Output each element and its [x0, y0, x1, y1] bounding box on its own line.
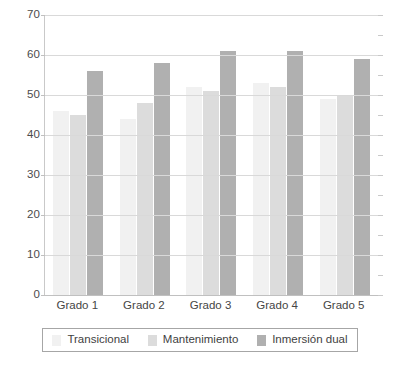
- legend-swatch-icon: [257, 335, 266, 346]
- y-minor-tick-right: [378, 155, 383, 156]
- legend-item[interactable]: Transicional: [52, 334, 129, 346]
- bar: [203, 91, 219, 295]
- y-minor-tick-right: [378, 195, 383, 196]
- bar: [154, 63, 170, 295]
- y-tick-label: 30: [6, 169, 40, 181]
- y-tick-mark: [41, 215, 45, 216]
- y-tick-label: 50: [6, 89, 40, 101]
- bar: [320, 99, 336, 295]
- bar-chart: 010203040506070 Grado 1Grado 2Grado 3Gra…: [0, 0, 402, 366]
- y-tick-mark-right: [378, 175, 383, 176]
- y-tick-mark: [41, 295, 45, 296]
- x-tick-label: Grado 2: [123, 299, 165, 313]
- bar-group: [112, 15, 179, 295]
- y-tick-mark-right: [378, 55, 383, 56]
- bar: [70, 115, 86, 295]
- bar-group: [311, 15, 378, 295]
- gridline: [45, 15, 378, 16]
- legend-label: Inmersión dual: [272, 334, 347, 346]
- y-tick-mark: [41, 55, 45, 56]
- y-axis: 010203040506070: [0, 0, 40, 310]
- bar: [120, 119, 136, 295]
- gridline: [45, 135, 378, 136]
- x-tick-label: Grado 3: [190, 299, 232, 313]
- y-minor-tick-right: [378, 75, 383, 76]
- y-tick-label: 70: [6, 9, 40, 21]
- y-tick-mark-right: [378, 135, 383, 136]
- x-tick-label: Grado 1: [57, 299, 99, 313]
- y-tick-mark-right: [378, 15, 383, 16]
- chart-legend: TransicionalMantenimientoInmersión dual: [42, 328, 358, 352]
- y-tick-label: 10: [6, 249, 40, 261]
- y-tick-mark: [41, 175, 45, 176]
- legend-swatch-icon: [148, 335, 157, 346]
- y-tick-mark: [41, 15, 45, 16]
- y-tick-mark-right: [378, 255, 383, 256]
- gridline: [45, 295, 378, 296]
- legend-label: Mantenimiento: [163, 334, 238, 346]
- bar: [186, 87, 202, 295]
- gridline: [45, 95, 378, 96]
- x-tick-label: Grado 5: [323, 299, 365, 313]
- legend-label: Transicional: [67, 334, 129, 346]
- x-axis: Grado 1Grado 2Grado 3Grado 4Grado 5: [44, 299, 377, 319]
- bars-layer: [45, 15, 378, 295]
- y-minor-tick-right: [378, 115, 383, 116]
- gridline: [45, 255, 378, 256]
- bar: [53, 111, 69, 295]
- bar: [253, 83, 269, 295]
- y-minor-tick-right: [378, 275, 383, 276]
- bar: [220, 51, 236, 295]
- x-tick-label: Grado 4: [256, 299, 298, 313]
- bar: [270, 87, 286, 295]
- y-tick-mark-right: [378, 295, 383, 296]
- bar: [287, 51, 303, 295]
- gridline: [45, 55, 378, 56]
- y-minor-tick-right: [378, 35, 383, 36]
- bar: [87, 71, 103, 295]
- y-tick-mark-right: [378, 215, 383, 216]
- legend-swatch-icon: [52, 335, 61, 346]
- y-tick-mark: [41, 95, 45, 96]
- y-tick-label: 20: [6, 209, 40, 221]
- gridline: [45, 215, 378, 216]
- y-tick-mark-right: [378, 95, 383, 96]
- bar-group: [45, 15, 112, 295]
- y-tick-label: 60: [6, 49, 40, 61]
- y-tick-label: 40: [6, 129, 40, 141]
- y-tick-mark: [41, 135, 45, 136]
- y-tick-mark: [41, 255, 45, 256]
- legend-item[interactable]: Mantenimiento: [148, 334, 238, 346]
- legend-item[interactable]: Inmersión dual: [257, 334, 347, 346]
- bar: [137, 103, 153, 295]
- y-tick-label: 0: [6, 289, 40, 301]
- gridline: [45, 175, 378, 176]
- plot-area: [44, 15, 378, 295]
- bar: [337, 95, 353, 295]
- y-minor-tick-right: [378, 235, 383, 236]
- bar-group: [245, 15, 312, 295]
- bar-group: [178, 15, 245, 295]
